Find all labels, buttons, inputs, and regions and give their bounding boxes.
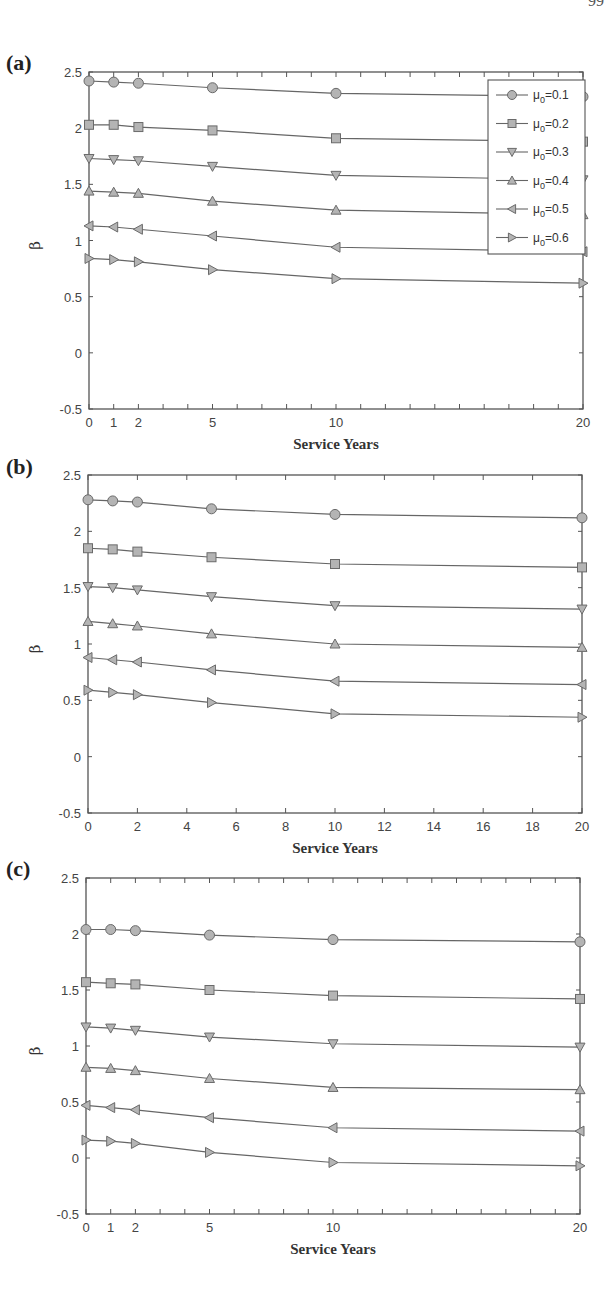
x-tick-label: 10	[329, 415, 343, 430]
x-tick-label: 10	[326, 1220, 340, 1235]
y-axis-title: β	[26, 645, 44, 654]
marker-square	[131, 980, 140, 989]
marker-triangle-left	[208, 231, 217, 241]
marker-square	[207, 553, 216, 562]
legend-box	[488, 80, 585, 254]
marker-triangle-left	[133, 224, 142, 234]
marker-triangle-left	[130, 1105, 139, 1115]
marker-circle	[328, 935, 338, 945]
marker-triangle-right	[109, 687, 118, 697]
marker-square	[84, 544, 93, 553]
y-tick-label: 1	[75, 234, 82, 249]
x-tick-label: 0	[84, 819, 91, 834]
marker-circle	[83, 495, 93, 505]
y-tick-label: 1	[72, 1039, 79, 1054]
marker-square	[108, 545, 117, 554]
x-tick-label: 5	[206, 1220, 213, 1235]
marker-square	[106, 979, 115, 988]
marker-circle	[331, 88, 341, 98]
marker-triangle-right	[332, 274, 341, 284]
marker-square	[329, 991, 338, 1000]
y-tick-label: -0.5	[57, 1207, 79, 1222]
marker-circle	[108, 496, 118, 506]
x-tick-label: 20	[573, 1220, 587, 1235]
y-tick-label: -0.5	[60, 402, 82, 417]
marker-square	[208, 126, 217, 135]
y-tick-label: 2	[74, 524, 81, 539]
marker-triangle-left	[106, 1103, 115, 1113]
marker-square	[205, 986, 214, 995]
x-tick-label: 1	[110, 415, 117, 430]
y-tick-label: 1.5	[61, 983, 79, 998]
y-tick-label: 2.5	[63, 468, 81, 483]
x-tick-label: 2	[135, 415, 142, 430]
marker-circle	[577, 513, 587, 523]
marker-triangle-left	[205, 1113, 214, 1123]
marker-triangle-up	[84, 186, 94, 195]
chart-canvas: 01251020-0.500.511.522.5Service Yearsβμ0…	[0, 0, 614, 1291]
x-tick-label: 6	[233, 819, 240, 834]
marker-triangle-left	[109, 222, 118, 232]
marker-triangle-right	[133, 690, 142, 700]
y-axis-title: β	[26, 241, 44, 250]
marker-circle	[207, 504, 217, 514]
y-tick-label: 2.5	[64, 65, 82, 80]
x-tick-label: 2	[134, 819, 141, 834]
y-tick-label: -0.5	[59, 806, 81, 821]
marker-triangle-right	[209, 265, 218, 275]
marker-circle	[81, 925, 91, 935]
y-tick-label: 1.5	[64, 177, 82, 192]
chart-2: 01251020-0.500.511.522.5Service Yearsβ	[26, 871, 587, 1257]
x-tick-label: 14	[427, 819, 441, 834]
marker-square	[508, 120, 516, 128]
marker-square	[331, 560, 340, 569]
marker-triangle-up	[81, 1062, 91, 1071]
marker-square	[578, 563, 587, 572]
y-axis-title: β	[26, 1047, 44, 1056]
marker-square	[109, 120, 118, 129]
marker-circle	[109, 77, 119, 87]
marker-circle	[508, 91, 517, 100]
y-tick-label: 0.5	[64, 290, 82, 305]
y-tick-label: 0	[75, 346, 82, 361]
marker-circle	[205, 930, 215, 940]
marker-triangle-left	[132, 657, 141, 667]
legend: μ0=0.1μ0=0.2μ0=0.3μ0=0.4μ0=0.5μ0=0.6	[488, 80, 585, 254]
marker-square	[576, 994, 585, 1003]
x-axis-title: Service Years	[290, 1241, 376, 1257]
x-tick-label: 1	[107, 1220, 114, 1235]
marker-triangle-right	[206, 1147, 215, 1157]
marker-triangle-right	[208, 698, 217, 708]
marker-square	[332, 134, 341, 143]
chart-0: 01251020-0.500.511.522.5Service Yearsβμ0…	[26, 65, 590, 452]
y-tick-label: 0.5	[63, 693, 81, 708]
x-axis-title: Service Years	[293, 436, 379, 452]
marker-circle	[132, 497, 142, 507]
marker-triangle-left	[330, 676, 339, 686]
x-tick-label: 18	[525, 819, 539, 834]
marker-circle	[130, 926, 140, 936]
y-tick-label: 2.5	[61, 871, 79, 886]
marker-triangle-right	[134, 257, 143, 267]
y-tick-label: 1	[74, 637, 81, 652]
x-tick-label: 0	[82, 1220, 89, 1235]
x-tick-label: 0	[85, 415, 92, 430]
y-tick-label: 2	[72, 927, 79, 942]
marker-circle	[208, 83, 218, 93]
marker-triangle-left	[331, 242, 340, 252]
x-tick-label: 16	[476, 819, 490, 834]
marker-square	[82, 978, 91, 987]
marker-triangle-right	[331, 709, 340, 719]
marker-triangle-right	[329, 1157, 338, 1167]
y-tick-label: 1.5	[63, 581, 81, 596]
y-tick-label: 0	[74, 750, 81, 765]
marker-circle	[575, 937, 585, 947]
marker-circle	[330, 509, 340, 519]
marker-triangle-up	[83, 616, 93, 625]
x-axis-title: Service Years	[292, 840, 378, 856]
marker-triangle-right	[110, 255, 119, 265]
x-tick-label: 10	[328, 819, 342, 834]
x-tick-label: 12	[377, 819, 391, 834]
marker-square	[133, 547, 142, 556]
marker-square	[134, 123, 143, 132]
